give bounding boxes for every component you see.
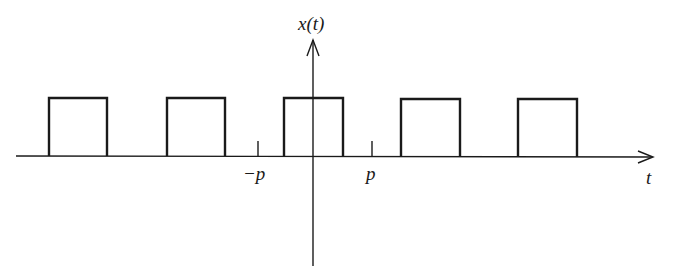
y-axis-label: x(t) bbox=[297, 13, 324, 35]
pulse-2 bbox=[167, 98, 225, 156]
t-axis bbox=[16, 156, 652, 157]
x-axis-label: t bbox=[646, 167, 652, 188]
neg-p-label: −p bbox=[243, 163, 265, 184]
pulse-4 bbox=[401, 99, 460, 157]
pulse-train-diagram: x(t) t −p p bbox=[0, 0, 673, 273]
pulse-5 bbox=[518, 99, 577, 157]
pulse-1 bbox=[49, 98, 107, 156]
pos-p-label: p bbox=[364, 163, 376, 184]
